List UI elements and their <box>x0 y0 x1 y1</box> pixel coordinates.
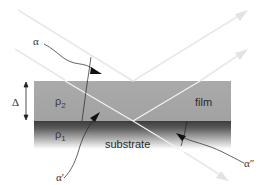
transmitted-ray-outside <box>184 152 222 176</box>
alpha-label: α <box>33 36 39 47</box>
rho-substrate-label: ρ1 <box>55 129 66 143</box>
upper-reflected-ray <box>133 15 240 81</box>
thin-film-diagram <box>0 0 268 185</box>
film-label: film <box>195 97 212 108</box>
rho-film-label: ρ2 <box>55 96 66 110</box>
arrowhead-interface-reflected <box>235 49 248 60</box>
rho-film-subscript: 2 <box>61 101 65 110</box>
alpha-double-prime-label: α″ <box>244 158 254 169</box>
rho-substrate-subscript: 1 <box>61 134 65 143</box>
lower-incident-ray-outside <box>15 49 65 80</box>
substrate-label: substrate <box>105 139 150 150</box>
arrowhead-upper-reflected <box>235 10 248 21</box>
alpha-pointer-arrowhead <box>90 67 102 74</box>
thickness-arrow <box>24 82 28 120</box>
thickness-label: Δ <box>12 97 19 108</box>
interface-reflected-ray-outside <box>200 54 240 81</box>
alpha-prime-label: α′ <box>56 172 64 183</box>
alpha-leader <box>44 44 96 71</box>
